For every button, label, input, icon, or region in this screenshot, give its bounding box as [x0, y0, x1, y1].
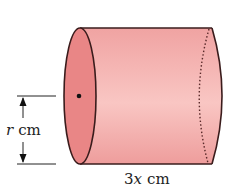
- arrow-down-icon: [20, 154, 27, 163]
- cylinder-body: [80, 28, 222, 164]
- radius-label: rcm: [6, 121, 41, 139]
- centre-dot: [77, 94, 82, 99]
- cylinder-diagram: rcm 3xcm: [0, 0, 238, 189]
- length-label: 3xcm: [124, 170, 170, 188]
- arrow-up-icon: [20, 97, 27, 106]
